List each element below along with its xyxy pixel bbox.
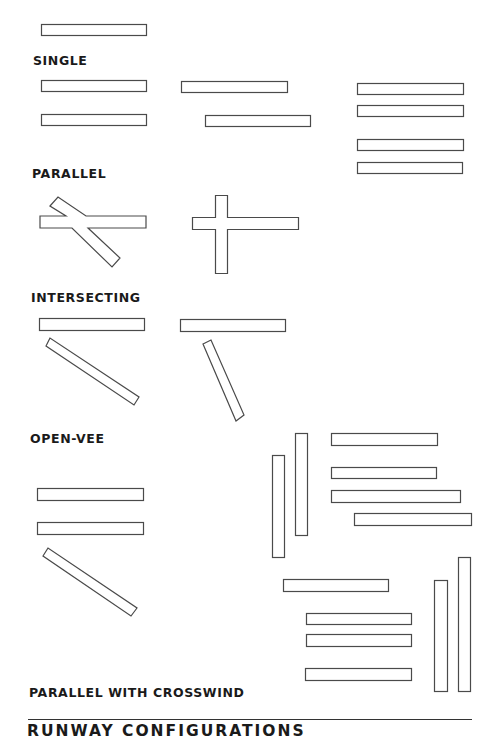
runway [46,338,139,405]
diagram-title: RUNWAY CONFIGURATIONS [27,724,306,740]
runway [358,106,464,117]
runway [42,25,147,36]
runway [273,456,285,558]
runway [355,514,472,526]
runway [40,319,145,331]
open-vee-runway-group-1 [40,319,145,406]
label-single: SINGLE [33,55,87,68]
runway [307,635,412,647]
crosswind-runway-group-2 [38,489,144,617]
parallel-runway-group-1 [42,81,147,126]
runway [358,140,464,151]
runway-pair [40,197,146,267]
label-intersecting: INTERSECTING [31,292,141,305]
open-vee-runway-group-2 [181,320,286,422]
runway [38,489,144,501]
label-parallel: PARALLEL [32,168,106,181]
title-divider [28,719,472,720]
single-runway-group [42,25,147,36]
intersecting-runway-group-2 [193,196,299,274]
runway-pair [193,196,299,274]
runway [42,115,147,126]
runway [206,116,311,127]
runway [358,84,464,95]
runway [306,669,412,681]
runway [182,82,288,93]
parallel-runway-group-3 [358,84,464,174]
runway [358,163,463,174]
intersecting-runway-group-1 [40,197,146,267]
label-parallel-with-crosswind: PARALLEL WITH CROSSWIND [29,687,245,700]
runway [38,523,144,535]
runway [203,340,244,421]
label-open-vee: OPEN-VEE [30,433,105,446]
runway [42,81,147,92]
runway [43,548,137,616]
runway [307,614,412,625]
runway [459,558,471,692]
runway [332,434,438,446]
runway [332,491,461,503]
parallel-runway-group-2 [182,82,311,127]
runway [284,580,389,592]
runway [435,581,448,692]
runway-diagram [0,0,500,742]
runway [296,434,308,536]
runway [332,468,437,479]
crosswind-runway-group-3 [284,558,471,692]
runway [181,320,286,332]
crosswind-runway-group-1 [273,434,472,558]
